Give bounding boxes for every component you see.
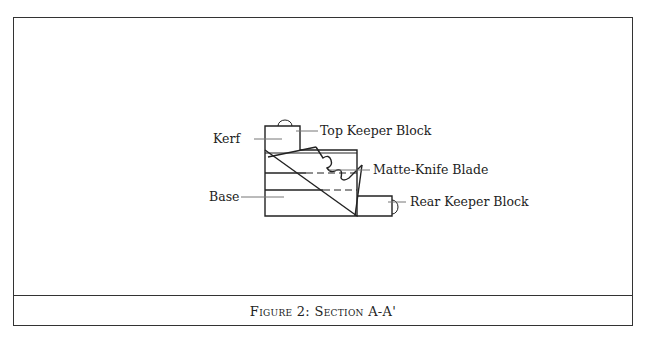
label-top-keeper-block: Top Keeper Block [320,123,432,138]
label-matte-knife-blade: Matte-Knife Blade [373,162,488,177]
blade-top-edge [268,147,316,157]
caption-divider [13,295,633,296]
label-base: Base [209,189,239,204]
label-kerf: Kerf [213,131,241,146]
label-rear-keeper-block: Rear Keeper Block [410,194,529,209]
section-diagram: Top Keeper Block Kerf Matte-Knife Blade … [0,0,646,343]
top-keeper-knob [278,120,292,126]
figure-caption: Figure 2: Section A-A' [13,297,633,326]
kerf-cut-line [265,150,357,216]
blade-grip-wave [316,147,362,180]
rear-keeper-block [357,196,392,216]
top-keeper-block [265,126,300,150]
